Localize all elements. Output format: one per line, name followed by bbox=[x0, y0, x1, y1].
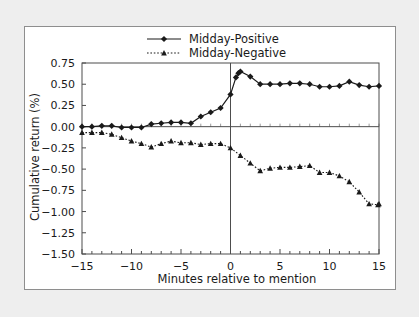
marker-triangle bbox=[168, 138, 174, 143]
marker-diamond bbox=[138, 124, 144, 130]
marker-diamond bbox=[79, 124, 85, 130]
marker-diamond bbox=[336, 83, 342, 89]
marker-diamond bbox=[168, 119, 174, 125]
y-tick-label: −0.50 bbox=[41, 163, 75, 176]
y-tick-label: 0.50 bbox=[51, 78, 76, 91]
x-tick-label: −10 bbox=[120, 260, 143, 273]
marker-triangle bbox=[317, 170, 323, 175]
x-tick-label: 15 bbox=[372, 260, 386, 273]
y-tick-label: 0.75 bbox=[51, 57, 76, 70]
marker-diamond bbox=[119, 124, 125, 130]
legend-label: Midday-Negative bbox=[189, 46, 286, 60]
x-tick-label: 10 bbox=[323, 260, 337, 273]
marker-diamond bbox=[128, 124, 134, 130]
y-tick-label: −1.00 bbox=[41, 206, 75, 219]
marker-triangle bbox=[346, 179, 352, 184]
x-axis-title: Minutes relative to mention bbox=[158, 272, 317, 286]
marker-diamond bbox=[307, 81, 313, 87]
marker-triangle bbox=[158, 141, 164, 146]
marker-diamond bbox=[178, 119, 184, 125]
y-tick-label: 0.25 bbox=[51, 99, 76, 112]
y-tick-label: 0.00 bbox=[51, 121, 76, 134]
marker-diamond bbox=[99, 123, 105, 129]
x-axis-ticks: −15−10−5051015 bbox=[70, 124, 386, 273]
marker-diamond bbox=[326, 84, 332, 90]
cumulative-return-chart: Midday-PositiveMidday-Negative −15−10−50… bbox=[25, 27, 395, 289]
chart-legend: Midday-PositiveMidday-Negative bbox=[147, 32, 286, 60]
marker-triangle bbox=[267, 165, 273, 170]
marker-diamond bbox=[158, 120, 164, 126]
marker-triangle bbox=[337, 173, 343, 178]
y-tick-label: −0.75 bbox=[41, 184, 75, 197]
marker-diamond bbox=[277, 81, 283, 87]
figure-panel: Midday-PositiveMidday-Negative −15−10−50… bbox=[24, 26, 396, 290]
y-tick-label: −1.25 bbox=[41, 227, 75, 240]
marker-triangle bbox=[327, 170, 333, 175]
marker-diamond bbox=[297, 80, 303, 86]
legend-label: Midday-Positive bbox=[189, 32, 279, 46]
marker-diamond bbox=[109, 123, 115, 129]
marker-diamond bbox=[89, 124, 95, 130]
marker-triangle bbox=[79, 130, 85, 135]
x-tick-label: −15 bbox=[70, 260, 93, 273]
y-tick-label: −1.50 bbox=[41, 248, 75, 261]
marker-diamond bbox=[356, 82, 362, 88]
marker-diamond bbox=[317, 84, 323, 90]
marker-triangle bbox=[356, 189, 362, 194]
marker-triangle bbox=[238, 153, 244, 158]
marker-diamond bbox=[267, 81, 273, 87]
marker-diamond bbox=[346, 79, 352, 85]
marker-triangle bbox=[376, 201, 382, 206]
marker-diamond bbox=[366, 84, 372, 90]
marker-diamond bbox=[287, 80, 293, 86]
marker-diamond bbox=[161, 36, 167, 42]
marker-diamond bbox=[376, 83, 382, 89]
y-axis-ticks: 0.750.500.250.00−0.25−0.50−0.75−1.00−1.2… bbox=[41, 57, 86, 261]
y-tick-label: −0.25 bbox=[41, 142, 75, 155]
marker-diamond bbox=[208, 109, 214, 115]
y-axis-title: Cumulative return (%) bbox=[28, 93, 42, 221]
